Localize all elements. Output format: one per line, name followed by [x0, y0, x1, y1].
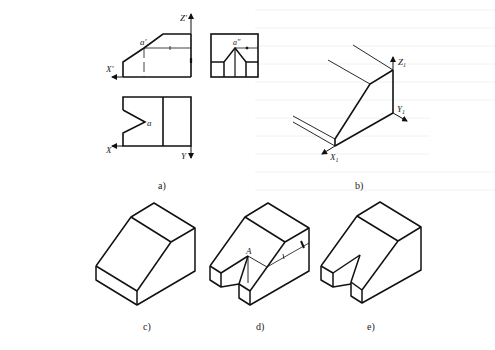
iso-axes-view: [293, 45, 407, 154]
front-axis-z-label: Z': [180, 13, 188, 23]
background-bleed: [255, 10, 495, 190]
technical-figure: Z' X' a' a" a X Y Z1 Y1 X1: [0, 0, 495, 350]
top-axis-y-label: Y: [181, 151, 187, 161]
point-A-label: A: [245, 246, 252, 256]
caption-a: a): [158, 180, 166, 191]
iso-axis-z-label: Z1: [398, 57, 406, 68]
top-axis-x-label: X: [105, 145, 112, 155]
iso-axis-y-label: Y1: [397, 104, 405, 115]
caption-b: b): [355, 180, 363, 191]
front-point-label: a': [140, 37, 148, 47]
caption-e: e): [367, 321, 375, 332]
side-point-label: a": [233, 38, 241, 47]
iso-block-d: [210, 203, 309, 305]
top-view: [112, 97, 191, 158]
top-point-label: a: [147, 118, 152, 128]
iso-block-e: [321, 202, 421, 303]
caption-c: c): [143, 321, 151, 332]
front-axis-x-label: X': [105, 64, 114, 74]
front-view: [112, 14, 191, 77]
iso-block-c: [96, 203, 195, 305]
caption-d: d): [256, 321, 264, 332]
